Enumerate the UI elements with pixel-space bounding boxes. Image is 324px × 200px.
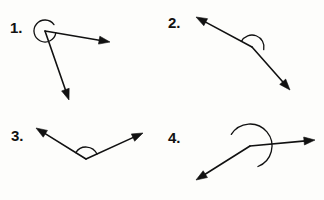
arrowhead-1-2 xyxy=(62,88,70,100)
arrowhead-1-1 xyxy=(98,36,110,44)
angle-figure-3 xyxy=(36,128,143,159)
angle-ray-2-2 xyxy=(252,47,284,83)
angle-figure-4 xyxy=(196,124,315,180)
angle-figure-2 xyxy=(196,17,290,90)
angle-ray-3-1 xyxy=(44,133,86,159)
arrowhead-3-2 xyxy=(131,133,143,141)
angle-ray-2-1 xyxy=(204,21,252,47)
angle-figure-1 xyxy=(34,20,110,100)
angle-label-4: 4. xyxy=(168,130,180,145)
worksheet-page: 1. 2. 3. 4. xyxy=(0,0,324,200)
angle-label-3: 3. xyxy=(11,128,23,143)
angle-label-2: 2. xyxy=(168,15,180,30)
angle-ray-4-1 xyxy=(250,141,306,146)
arrowhead-4-1 xyxy=(304,137,315,145)
angle-ray-4-2 xyxy=(204,146,250,175)
angle-ray-3-2 xyxy=(86,137,134,159)
angle-ray-1-2 xyxy=(45,31,66,91)
angles-figure-canvas xyxy=(0,0,324,200)
arrowhead-3-1 xyxy=(36,128,47,137)
arrowhead-4-2 xyxy=(196,171,207,180)
angle-label-1: 1. xyxy=(10,20,22,35)
arrowhead-2-1 xyxy=(196,17,208,26)
angle-arc-3 xyxy=(76,147,97,154)
